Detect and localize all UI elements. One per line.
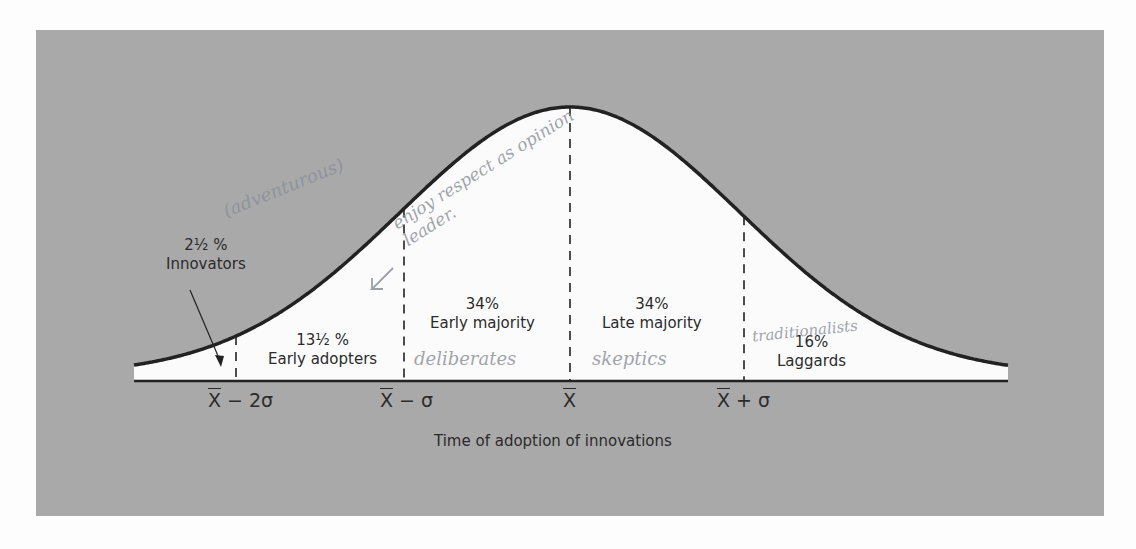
segment-name: Early adopters <box>268 350 377 369</box>
segment-percent: 34% <box>602 295 702 314</box>
segment-early-adopters: 13½ % Early adopters <box>268 331 377 369</box>
segment-name: Early majority <box>430 314 535 333</box>
segment-name: Innovators <box>166 255 246 274</box>
tick-plus-1sigma: X + σ <box>717 389 770 411</box>
segment-name: Late majority <box>602 314 702 333</box>
segment-percent: 13½ % <box>268 331 377 350</box>
segment-late-majority: 34% Late majority <box>602 295 702 333</box>
segment-percent: 34% <box>430 295 535 314</box>
tick-minus-2sigma: X − 2σ <box>208 389 273 411</box>
segment-percent: 2½ % <box>166 236 246 255</box>
segment-innovators: 2½ % Innovators <box>166 236 246 274</box>
bell-curve-chart <box>0 0 1136 549</box>
segment-early-majority: 34% Early majority <box>430 295 535 333</box>
tick-mean: X <box>563 389 576 411</box>
segment-name: Laggards <box>777 352 846 371</box>
x-axis-label: Time of adoption of innovations <box>434 432 672 450</box>
annotation-skeptics: skeptics <box>592 348 667 369</box>
annotation-deliberates: deliberates <box>414 348 516 369</box>
tick-minus-1sigma: X − σ <box>380 389 433 411</box>
